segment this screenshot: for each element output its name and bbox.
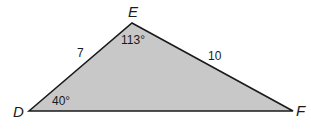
angle-label-d: 40°: [52, 94, 70, 108]
triangle-diagram: E D F 7 10 113° 40°: [0, 0, 311, 129]
side-label-de: 7: [77, 46, 84, 60]
side-label-ef: 10: [208, 49, 222, 63]
angle-label-e: 113°: [121, 33, 145, 47]
vertex-label-e: E: [128, 3, 139, 20]
vertex-label-d: D: [13, 103, 24, 120]
vertex-label-f: F: [296, 102, 306, 119]
